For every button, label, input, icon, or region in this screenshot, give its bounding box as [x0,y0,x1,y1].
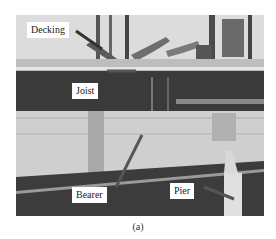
joist-highlight [151,77,153,113]
photo-drawing [16,15,264,216]
debris [196,45,212,59]
figure-caption: (a) [0,221,276,232]
joist-band [16,71,264,111]
equipment [222,19,244,57]
decking-edge [16,67,264,70]
joist-reflection [176,99,264,104]
label-bearer: Bearer [72,187,107,203]
label-pier: Pier [170,183,194,199]
label-decking: Decking [27,22,69,38]
deck-structure-photo: Decking Joist Bearer Pier [16,15,264,216]
railing-post [96,15,100,63]
label-joist: Joist [72,83,98,99]
joist-highlight [167,77,169,113]
railing-post [125,15,129,61]
pier-bracket [212,113,236,141]
vertical-post [88,111,104,173]
railing-post [248,15,252,61]
